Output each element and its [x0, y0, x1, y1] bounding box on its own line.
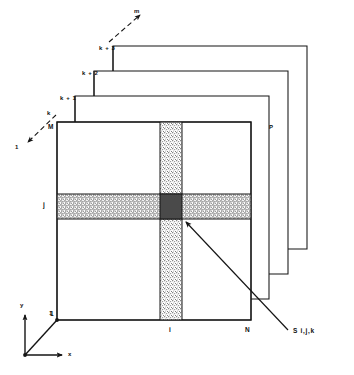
depth-axis-end-label: m	[134, 8, 140, 14]
axis-label-x: x	[68, 351, 72, 357]
grid-column-label-i: i	[169, 327, 172, 334]
axis-label-y: y	[20, 302, 24, 308]
layer-label-k: k	[47, 110, 51, 116]
grid-ymax-label: M	[48, 124, 54, 131]
grid-row-label-j: j	[43, 202, 46, 209]
depth-axis-start-label: 1	[15, 144, 19, 150]
layer-label-k3: k + 3	[99, 45, 116, 51]
figure-layered-grid: m) ============ --> m k + 3 k + 2 k + 1	[0, 0, 354, 375]
axis-origin-label: 1	[49, 310, 53, 316]
coordinate-axes	[23, 315, 62, 357]
grid-xmax-label: N	[245, 327, 250, 334]
diagram-canvas: m) ============ -->	[0, 0, 354, 375]
column-band-i	[160, 122, 182, 320]
callout-label-sijk: S i,j,k	[293, 328, 315, 335]
cell-sijk	[160, 194, 182, 219]
layer-label-k2: k + 2	[82, 70, 99, 76]
depth-axis-arrow	[109, 15, 140, 42]
layer-plane-k	[57, 122, 251, 320]
row-band-j	[57, 194, 251, 219]
depth-side-label: P	[269, 124, 274, 130]
layer-label-k1: k + 1	[60, 95, 77, 101]
